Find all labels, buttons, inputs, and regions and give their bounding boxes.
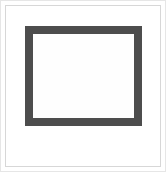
figure-canvas: [0, 0, 166, 172]
frame-interior-fill: [33, 34, 134, 118]
dark-rectangle-frame: [25, 26, 142, 126]
